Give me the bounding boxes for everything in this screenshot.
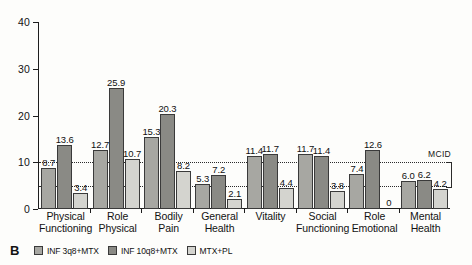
bar-group: 6.06.24.2 bbox=[399, 22, 450, 209]
bar-value-label: 5.3 bbox=[196, 173, 209, 184]
category-label-1: RolePhysical bbox=[92, 211, 143, 234]
bar-value-label: 0 bbox=[386, 197, 391, 208]
bar-group: 15.320.38.2 bbox=[142, 22, 193, 209]
bar-value-label: 25.9 bbox=[107, 77, 125, 88]
bar-group: 11.711.43.8 bbox=[296, 22, 347, 209]
bar-value-label: 3.4 bbox=[74, 182, 87, 193]
category-label-5: SocialFunctioning bbox=[296, 211, 349, 234]
legend-label: INF 3q8+MTX bbox=[47, 246, 99, 256]
bar[interactable]: 6.0 bbox=[401, 181, 416, 209]
legend-item[interactable]: INF 10q8+MTX bbox=[108, 246, 178, 256]
bar-group: 5.37.22.1 bbox=[193, 22, 244, 209]
bar[interactable]: 5.3 bbox=[195, 184, 210, 209]
legend-label: MTX+PL bbox=[200, 246, 233, 256]
y-tick-label-30: 30 bbox=[18, 63, 30, 75]
y-tick-label-10: 10 bbox=[18, 156, 30, 168]
bar-value-label: 11.4 bbox=[313, 145, 330, 156]
legend-swatch bbox=[187, 246, 196, 255]
category-label-2: BodilyPain bbox=[143, 211, 194, 234]
bar[interactable]: 7.4 bbox=[349, 174, 364, 209]
bar[interactable]: 11.4 bbox=[247, 156, 262, 209]
bar-value-label: 4.2 bbox=[434, 178, 447, 189]
bar[interactable]: 15.3 bbox=[144, 137, 159, 209]
category-label-line: Physical bbox=[39, 211, 92, 223]
bar-value-label: 12.7 bbox=[91, 139, 109, 150]
bar-value-label: 8.2 bbox=[177, 160, 190, 171]
bar-value-label: 8.7 bbox=[42, 157, 55, 168]
legend-item[interactable]: INF 3q8+MTX bbox=[34, 246, 99, 256]
category-label-line: Physical bbox=[92, 223, 143, 235]
bar-value-label: 15.3 bbox=[142, 126, 160, 137]
bar-value-label: 6.2 bbox=[418, 169, 431, 180]
panel-label: B bbox=[10, 243, 20, 258]
category-label-line: Health bbox=[400, 223, 451, 235]
bar[interactable]: 4.4 bbox=[279, 188, 294, 209]
category-label-line: Pain bbox=[143, 223, 194, 235]
category-label-7: MentalHealth bbox=[400, 211, 451, 234]
bar-value-label: 7.4 bbox=[350, 163, 363, 174]
category-label-line: Functioning bbox=[39, 223, 92, 235]
legend-swatch bbox=[108, 246, 117, 255]
category-label-6: RoleEmotional bbox=[349, 211, 400, 234]
category-label-line: Emotional bbox=[349, 223, 400, 235]
bar[interactable]: 12.7 bbox=[93, 150, 108, 209]
category-label-line: Mental bbox=[400, 211, 451, 223]
category-label-line: Vitality bbox=[245, 211, 296, 223]
category-label-line: Bodily bbox=[143, 211, 194, 223]
bar[interactable]: 25.9 bbox=[109, 88, 124, 209]
bar-value-label: 6.0 bbox=[402, 170, 415, 181]
chart-panel-b: 010203040 MCID 8.713.63.412.725.910.715.… bbox=[0, 0, 472, 265]
bar[interactable]: 20.3 bbox=[160, 114, 175, 209]
bar[interactable]: 6.2 bbox=[417, 180, 432, 209]
bar[interactable]: 2.1 bbox=[227, 199, 242, 209]
legend-item[interactable]: MTX+PL bbox=[187, 246, 233, 256]
bar-value-label: 12.6 bbox=[364, 139, 382, 150]
bar-value-label: 13.6 bbox=[56, 134, 74, 145]
bar-value-label: 2.1 bbox=[228, 188, 241, 199]
y-tick-label-40: 40 bbox=[18, 16, 30, 28]
bar-group: 12.725.910.7 bbox=[90, 22, 141, 209]
bar[interactable]: 7.2 bbox=[211, 175, 226, 209]
category-label-line: Functioning bbox=[296, 223, 349, 235]
bar[interactable]: 10.7 bbox=[125, 159, 140, 209]
bar-groups: 8.713.63.412.725.910.715.320.38.25.37.22… bbox=[39, 22, 450, 209]
category-label-line: Role bbox=[349, 211, 400, 223]
category-label-line: General bbox=[194, 211, 245, 223]
bar-value-label: 7.2 bbox=[212, 164, 225, 175]
category-label-0: PhysicalFunctioning bbox=[39, 211, 92, 234]
bar[interactable]: 4.2 bbox=[433, 189, 448, 209]
category-label-4: Vitality bbox=[245, 211, 296, 234]
bar-group: 8.713.63.4 bbox=[39, 22, 90, 209]
bar[interactable]: 8.2 bbox=[176, 171, 191, 209]
bar-value-label: 10.7 bbox=[123, 148, 141, 159]
bar[interactable]: 8.7 bbox=[41, 168, 56, 209]
bar[interactable]: 3.8 bbox=[330, 191, 345, 209]
category-label-line: Role bbox=[92, 211, 143, 223]
bar-value-label: 20.3 bbox=[158, 103, 176, 114]
bar-value-label: 11.4 bbox=[245, 145, 262, 156]
bar[interactable]: 12.6 bbox=[365, 150, 380, 209]
category-label-3: GeneralHealth bbox=[194, 211, 245, 234]
category-label-line: Health bbox=[194, 223, 245, 235]
bar[interactable]: 13.6 bbox=[57, 145, 72, 209]
bar[interactable]: 11.7 bbox=[298, 154, 313, 209]
bar-group: 7.412.60 bbox=[347, 22, 398, 209]
category-label-line: Social bbox=[296, 211, 349, 223]
bar-group: 11.411.74.4 bbox=[245, 22, 296, 209]
bar-value-label: 11.7 bbox=[261, 143, 278, 154]
legend-label: INF 10q8+MTX bbox=[121, 246, 178, 256]
bar[interactable]: 11.7 bbox=[263, 154, 278, 209]
y-tick-label-20: 20 bbox=[18, 110, 30, 122]
bar-value-label: 11.7 bbox=[297, 143, 314, 154]
category-labels: PhysicalFunctioningRolePhysicalBodilyPai… bbox=[39, 211, 451, 234]
plot-area: 010203040 MCID 8.713.63.412.725.910.715.… bbox=[38, 22, 450, 209]
bar[interactable]: 11.4 bbox=[314, 156, 329, 209]
chart-legend: B INF 3q8+MTXINF 10q8+MTXMTX+PL bbox=[10, 243, 241, 258]
bar-value-label: 4.4 bbox=[280, 177, 293, 188]
y-tick-label-0: 0 bbox=[24, 203, 30, 215]
bar[interactable]: 3.4 bbox=[73, 193, 88, 209]
bar-value-label: 3.8 bbox=[331, 180, 344, 191]
legend-swatch bbox=[34, 246, 43, 255]
